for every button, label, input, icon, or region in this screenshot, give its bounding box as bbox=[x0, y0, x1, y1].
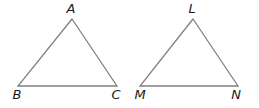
vertex-label-l: L bbox=[188, 1, 195, 16]
vertex-label-a: A bbox=[66, 1, 76, 16]
vertex-label-n: N bbox=[231, 87, 241, 102]
triangle-lmn: L M N bbox=[134, 1, 241, 102]
vertex-label-m: M bbox=[134, 87, 145, 102]
triangle-abc: A B C bbox=[13, 1, 122, 102]
vertex-label-c: C bbox=[111, 87, 121, 102]
diagram-canvas: A B C L M N bbox=[0, 0, 259, 108]
vertex-label-b: B bbox=[13, 87, 22, 102]
triangle-abc-outline bbox=[18, 19, 117, 86]
triangle-lmn-outline bbox=[140, 19, 238, 86]
